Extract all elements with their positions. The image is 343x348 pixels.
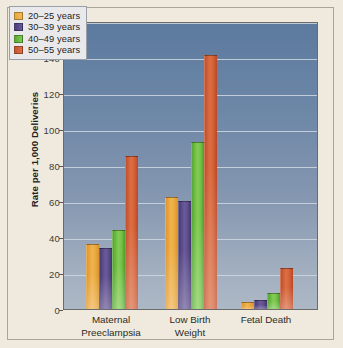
bar xyxy=(125,156,138,309)
bar xyxy=(204,55,217,309)
y-tick-label: 0 xyxy=(20,305,60,316)
x-group-label-line: Weight xyxy=(135,327,245,340)
bar xyxy=(86,244,99,309)
y-tick-label: 120 xyxy=(20,89,60,100)
legend-label: 30–39 years xyxy=(28,22,80,32)
bar xyxy=(99,248,112,309)
y-tick-label: 60 xyxy=(20,197,60,208)
x-group-label: Fetal Death xyxy=(211,314,321,327)
bar xyxy=(254,300,267,309)
legend-swatch-icon xyxy=(14,23,23,31)
legend-swatch-icon xyxy=(14,35,23,43)
y-tick-label: 20 xyxy=(20,269,60,280)
bar xyxy=(178,201,191,309)
chart-figure: 020406080100120140160 Rate per 1,000 Del… xyxy=(0,0,343,348)
legend-swatch-icon xyxy=(14,46,23,54)
legend-label: 20–25 years xyxy=(28,11,80,21)
bar-group xyxy=(241,23,293,309)
y-tick-label: 80 xyxy=(20,161,60,172)
bar xyxy=(112,230,125,309)
y-tick-label: 40 xyxy=(20,233,60,244)
bar xyxy=(267,293,280,309)
x-group-label-line: Fetal Death xyxy=(211,314,321,327)
bar xyxy=(280,268,293,309)
legend-item[interactable]: 50–55 years xyxy=(14,45,80,57)
legend-item[interactable]: 40–49 years xyxy=(14,33,80,45)
bar xyxy=(191,142,204,309)
y-tick-label: 100 xyxy=(20,125,60,136)
y-tick-mark xyxy=(59,310,63,311)
legend-label: 40–49 years xyxy=(28,34,80,44)
legend-item[interactable]: 30–39 years xyxy=(14,22,80,34)
legend-label: 50–55 years xyxy=(28,45,80,55)
legend-swatch-icon xyxy=(14,12,23,20)
y-axis-title: Rate per 1,000 Deliveries xyxy=(29,50,40,250)
legend-item[interactable]: 20–25 years xyxy=(14,10,80,22)
bar-group xyxy=(86,23,138,309)
bar xyxy=(165,197,178,309)
plot-area xyxy=(63,22,318,310)
bar xyxy=(241,302,254,309)
bar-group xyxy=(165,23,217,309)
legend: 20–25 years30–39 years40–49 years50–55 y… xyxy=(9,6,87,60)
